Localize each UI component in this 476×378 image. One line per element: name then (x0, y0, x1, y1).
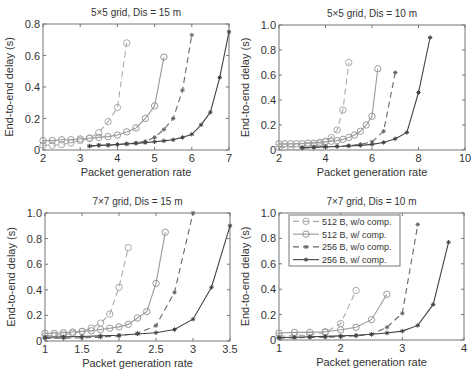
series-line (45, 226, 230, 337)
y-tick-label: 0.8 (261, 232, 276, 244)
x-tick-label: 4 (322, 152, 328, 164)
star-marker (98, 334, 102, 338)
circle-marker (125, 244, 131, 250)
y-tick-label: 0 (34, 144, 40, 156)
star-marker (228, 224, 232, 228)
legend-entry-label: 512 B, w/ comp. (322, 230, 387, 240)
star-marker (172, 327, 176, 331)
circle-marker (353, 287, 359, 293)
star-marker (381, 129, 385, 133)
star-marker (292, 335, 296, 339)
x-tick-label: 4 (114, 152, 120, 164)
star-marker (227, 30, 231, 34)
y-axis-label: End-to-end delay (s) (5, 227, 17, 327)
star-marker (323, 334, 327, 338)
series-2 (40, 54, 167, 144)
x-tick-label: 2 (338, 342, 344, 354)
star-marker (180, 88, 184, 92)
x-axis-label: Packet generation rate (82, 357, 193, 369)
x-tick-label: 2 (276, 152, 282, 164)
star-marker (381, 140, 385, 144)
y-tick-label: 0.6 (261, 69, 276, 81)
star-marker (115, 142, 119, 146)
star-marker (308, 335, 312, 339)
star-marker (347, 144, 351, 148)
star-marker (385, 331, 389, 335)
series-line (90, 35, 192, 146)
star-marker (358, 143, 362, 147)
y-axis-label: End-to-end delay (s) (3, 37, 15, 137)
x-tick-label: 2 (40, 152, 46, 164)
x-tick-label: 7 (226, 152, 232, 164)
x-tick-label: 1 (276, 342, 282, 354)
series-line (45, 213, 193, 338)
legend-entry-label: 512 B, w/o comp. (322, 217, 392, 227)
star-marker (190, 132, 194, 136)
x-tick-label: 3 (190, 343, 196, 355)
star-marker (335, 144, 339, 148)
star-marker (218, 75, 222, 79)
y-tick-label: 0 (270, 144, 276, 156)
star-marker (428, 35, 432, 39)
figure-container: 23456700.20.40.60.85×5 grid, Dis = 15 mP… (0, 0, 476, 378)
star-marker (312, 145, 316, 149)
star-marker (431, 302, 435, 306)
star-marker (162, 127, 166, 131)
star-marker (416, 222, 420, 226)
star-marker (162, 139, 166, 143)
star-marker (106, 143, 110, 147)
star-marker (180, 135, 184, 139)
subplot-2: 24681000.20.40.60.81.05×5 grid, Dis = 10… (239, 8, 471, 178)
series-3 (300, 70, 397, 150)
star-marker (190, 33, 194, 37)
star-marker (117, 333, 121, 337)
star-marker (80, 334, 84, 338)
y-tick-label: 0 (36, 335, 42, 347)
star-marker (385, 325, 389, 329)
series-line (43, 43, 127, 145)
series-3 (43, 211, 195, 341)
chart-title: 5×5 grid, Dis = 15 m (91, 7, 181, 18)
series-line (279, 294, 387, 333)
plot-frame (279, 25, 465, 150)
x-tick-label: 10 (459, 152, 471, 164)
y-tick-label: 1.0 (261, 207, 276, 219)
y-tick-label: 0.4 (27, 284, 42, 296)
y-tick-label: 0.8 (25, 18, 40, 30)
circle-marker (97, 320, 103, 326)
star-marker (400, 329, 404, 333)
chart-title: 7×7 grid, Dis = 15 m (92, 196, 182, 207)
star-marker (199, 123, 203, 127)
star-marker (208, 110, 212, 114)
series-2 (276, 66, 381, 147)
y-tick-label: 0.4 (261, 283, 276, 295)
star-marker (97, 143, 101, 147)
star-marker (405, 130, 409, 134)
x-axis-label: Packet generation rate (81, 166, 192, 178)
x-tick-label: 2 (116, 343, 122, 355)
x-tick-label: 6 (369, 152, 375, 164)
y-tick-label: 0.8 (27, 233, 42, 245)
star-marker (61, 335, 65, 339)
x-tick-label: 5 (152, 152, 158, 164)
y-axis-label: End-to-end delay (s) (239, 38, 251, 138)
star-marker (446, 240, 450, 244)
x-tick-label: 6 (189, 152, 195, 164)
star-marker (416, 323, 420, 327)
star-marker (354, 333, 358, 337)
y-tick-label: 1.0 (261, 19, 276, 31)
star-marker (191, 317, 195, 321)
star-marker (152, 140, 156, 144)
star-marker (323, 145, 327, 149)
legend-entry-label: 256 B, w/o comp. (322, 242, 392, 252)
star-marker (393, 137, 397, 141)
star-marker (393, 70, 397, 74)
y-tick-label: 0.2 (25, 113, 40, 125)
x-tick-label: 2.5 (148, 343, 163, 355)
star-marker (369, 332, 373, 336)
star-marker (416, 90, 420, 94)
star-marker (370, 142, 374, 146)
star-marker (191, 211, 195, 215)
y-tick-label: 0.6 (25, 50, 40, 62)
star-marker (171, 116, 175, 120)
